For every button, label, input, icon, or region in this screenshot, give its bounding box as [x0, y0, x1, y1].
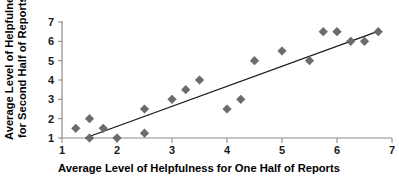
data-point	[319, 27, 328, 36]
y-tick-label-3: 3	[48, 93, 54, 105]
data-point	[140, 105, 149, 114]
plot-canvas: Average Level of Helpfulness for Second …	[0, 0, 399, 181]
y-axis-title-line1: Average Level of Helpfulness	[3, 0, 15, 140]
data-point	[85, 114, 94, 123]
x-tick-label-6: 6	[334, 144, 340, 156]
y-tick-label-2: 2	[48, 113, 54, 125]
trendline-path	[85, 31, 380, 138]
data-point	[140, 129, 149, 138]
data-point	[223, 105, 232, 114]
x-tick-label-1: 1	[59, 144, 65, 156]
x-tick-label-7: 7	[389, 144, 395, 156]
scatter-plot-figure: Average Level of Helpfulness for Second …	[0, 0, 399, 181]
y-axis-title: Average Level of Helpfulness for Second …	[3, 0, 28, 140]
x-tick-label-2: 2	[114, 144, 120, 156]
data-point	[333, 27, 342, 36]
data-points	[71, 27, 382, 142]
y-tick-label-6: 6	[48, 35, 54, 47]
x-tick-label-3: 3	[169, 144, 175, 156]
x-axis: 1234567	[59, 138, 395, 156]
data-point	[168, 95, 177, 104]
data-point	[374, 27, 383, 36]
y-tick-label-5: 5	[48, 55, 54, 67]
data-point	[360, 37, 369, 46]
x-axis-title: Average Level of Helpfulness for One Hal…	[58, 162, 340, 174]
data-point	[236, 95, 245, 104]
data-point	[71, 124, 80, 133]
y-tick-label-7: 7	[48, 16, 54, 28]
x-tick-label-4: 4	[224, 144, 231, 156]
data-point	[278, 47, 287, 56]
data-point	[195, 76, 204, 85]
y-tick-label-4: 4	[48, 74, 55, 86]
data-point	[181, 85, 190, 94]
y-axis-title-line2: for Second Half of Reports	[16, 0, 28, 138]
y-tick-label-1: 1	[48, 132, 54, 144]
data-point	[250, 56, 259, 65]
data-point	[99, 124, 108, 133]
trendline	[85, 31, 380, 138]
data-point	[346, 37, 355, 46]
data-point	[113, 134, 122, 143]
y-axis: 1234567	[48, 16, 62, 144]
x-tick-label-5: 5	[279, 144, 285, 156]
